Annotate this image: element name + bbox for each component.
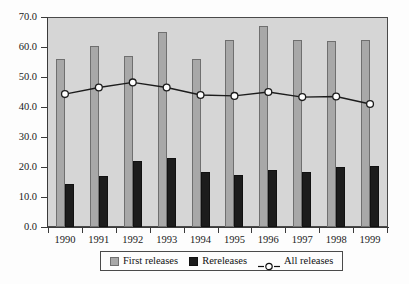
- y-axis-tick-label: 40.0: [0, 102, 37, 113]
- x-axis-tick: [251, 228, 252, 233]
- y-axis-tick-label: 50.0: [0, 72, 37, 83]
- chart-legend: First releases Rereleases All releases: [100, 251, 343, 271]
- y-axis-tick-label: 30.0: [0, 132, 37, 143]
- bar-first-releases: [56, 59, 65, 227]
- x-axis-tick: [184, 228, 185, 233]
- legend-entry-rereleases: Rereleases: [189, 256, 247, 267]
- line-circle-marker: [258, 257, 280, 266]
- y-axis-tick: [41, 137, 47, 138]
- y-axis-tick: [41, 17, 47, 18]
- bar-rereleases: [133, 161, 142, 227]
- bar-rereleases: [302, 172, 311, 228]
- x-axis-tick-label: 1999: [350, 234, 390, 247]
- legend-label-first-releases: First releases: [123, 256, 178, 267]
- bar-rereleases: [234, 175, 243, 228]
- bar-first-releases: [259, 26, 268, 227]
- legend-label-all-releases: All releases: [284, 256, 333, 267]
- bar-rereleases: [370, 166, 379, 228]
- x-axis-tick: [319, 228, 320, 233]
- y-axis-tick: [41, 47, 47, 48]
- gray-square-swatch: [110, 257, 119, 266]
- y-axis-tick-label: 20.0: [0, 162, 37, 173]
- y-axis-tick-label: 70.0: [0, 12, 37, 23]
- black-square-swatch: [189, 257, 198, 266]
- bar-first-releases: [158, 32, 167, 227]
- legend-label-rereleases: Rereleases: [202, 256, 247, 267]
- bar-first-releases: [327, 41, 336, 227]
- x-axis-tick: [387, 228, 388, 233]
- bar-first-releases: [124, 56, 133, 227]
- bar-first-releases: [90, 46, 99, 228]
- x-axis-tick: [116, 228, 117, 233]
- y-axis-tick-label: 60.0: [0, 42, 37, 53]
- y-axis-tick: [41, 107, 47, 108]
- legend-entry-first-releases: First releases: [110, 256, 178, 267]
- x-axis-tick: [150, 228, 151, 233]
- x-axis-tick: [48, 228, 49, 233]
- legend-entry-all-releases: All releases: [258, 256, 333, 267]
- bar-first-releases: [361, 40, 370, 228]
- y-axis-line: [47, 17, 48, 228]
- bar-first-releases: [192, 59, 201, 227]
- bar-rereleases: [65, 184, 74, 228]
- x-axis-tick: [353, 228, 354, 233]
- y-axis-tick: [41, 197, 47, 198]
- bar-rereleases: [336, 167, 345, 227]
- bar-first-releases: [293, 40, 302, 228]
- y-axis-tick: [41, 167, 47, 168]
- x-axis-tick: [218, 228, 219, 233]
- bar-rereleases: [268, 170, 277, 227]
- y-axis-tick-label: 10.0: [0, 192, 37, 203]
- y-axis-tick: [41, 77, 47, 78]
- bar-rereleases: [99, 176, 108, 227]
- bar-rereleases: [201, 172, 210, 228]
- bar-first-releases: [225, 40, 234, 228]
- y-axis-tick-label: 0.0: [0, 222, 37, 233]
- chart-figure: 70.060.050.040.030.020.010.00.0 19901991…: [0, 0, 409, 284]
- x-axis-tick: [285, 228, 286, 233]
- x-axis-tick: [82, 228, 83, 233]
- bar-rereleases: [167, 158, 176, 227]
- x-axis-line: [42, 227, 389, 228]
